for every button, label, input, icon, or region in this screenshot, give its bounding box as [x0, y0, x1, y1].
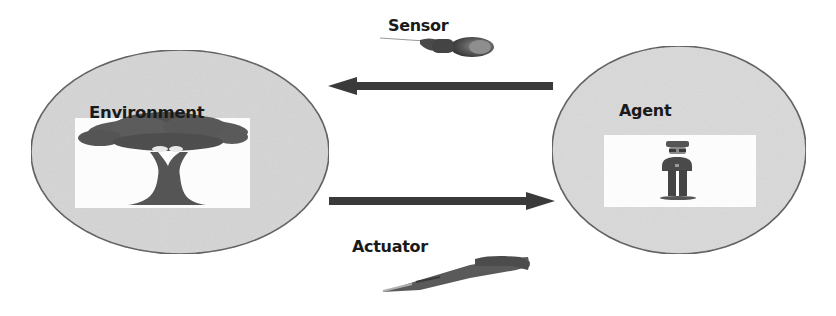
actuator-label: Actuator [352, 237, 428, 256]
environment-label: Environment [89, 103, 204, 122]
agent-label: Agent [619, 101, 671, 120]
sensor-icon [380, 37, 494, 57]
diagram-canvas [0, 0, 836, 316]
actuator-icon [382, 256, 530, 292]
sensor-label: Sensor [388, 16, 448, 35]
actuator-arrow [329, 192, 555, 210]
sensor-arrow [328, 77, 553, 95]
